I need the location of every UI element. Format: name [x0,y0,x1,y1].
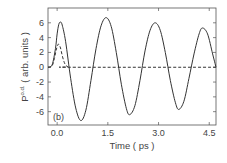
x-tick-label: 4.5 [203,128,216,138]
y-tick-label: -2 [36,77,44,87]
x-axis-label: Time ( ps ) [109,140,154,151]
series-group [48,18,216,121]
x-tick-label: 0.0 [51,128,64,138]
x-tick-label: 1.5 [102,128,115,138]
series-solid-line [48,18,216,121]
y-tick-label: 4 [39,33,44,43]
y-axis-label-units: ( arb. units ) [19,32,30,85]
y-axis-label: Po.d. ( arb. units ) [19,32,30,102]
plot-frame [48,8,216,125]
y-tick-label: 2 [39,47,44,57]
y-tick-label: 0 [39,62,44,72]
line-chart: 6420-2-4-6 0.01.53.04.5 (b) Time ( ps ) … [0,0,227,163]
y-tick-label: -6 [36,107,44,117]
x-tick-label: 3.0 [152,128,165,138]
y-tick-label: 6 [39,18,44,28]
panel-label: (b) [53,112,64,122]
series-dashed-line [48,44,216,67]
y-axis-label-superscript: o.d. [19,85,25,95]
y-tick-label: -4 [36,92,44,102]
x-axis-ticks: 0.01.53.04.5 [51,8,216,138]
